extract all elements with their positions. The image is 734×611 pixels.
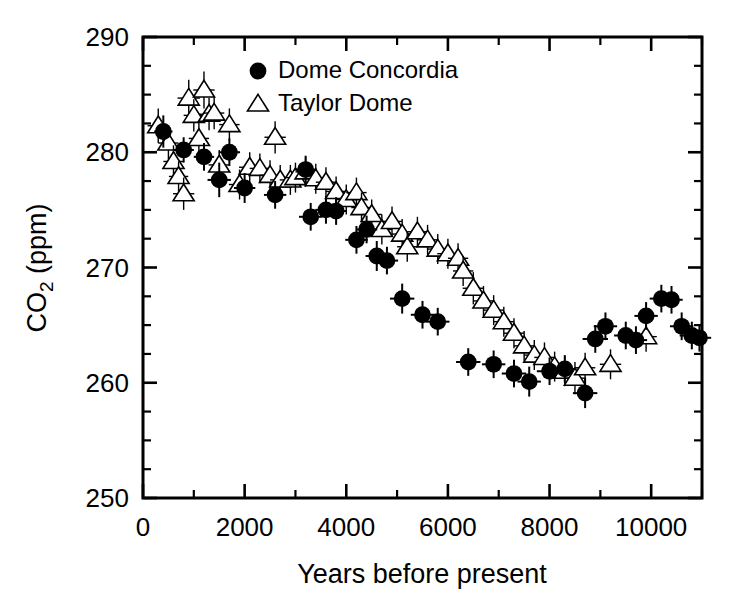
marker-filled-circle [221,144,238,161]
marker-filled-circle [628,332,645,349]
y-tick-label: 280 [86,137,129,167]
x-tick-label: 8000 [521,512,579,542]
y-tick-label: 290 [86,22,129,52]
chart-canvas: 250260270280290 0200040006000800010000 D… [0,0,734,611]
marker-filled-circle [485,356,502,373]
co2-ice-core-chart: 250260270280290 0200040006000800010000 D… [0,0,734,611]
marker-filled-circle [691,329,708,346]
marker-filled-circle [541,363,558,380]
marker-filled-circle [638,308,655,325]
x-tick-label: 0 [136,512,150,542]
marker-filled-circle [429,313,446,330]
marker-filled-circle [267,186,284,203]
marker-filled-circle [506,365,523,382]
y-tick-label: 250 [86,483,129,513]
marker-filled-circle [302,208,319,225]
legend-label: Taylor Dome [278,89,413,116]
marker-filled-circle [379,252,396,269]
marker-filled-circle [211,172,228,189]
x-tick-label: 6000 [419,512,477,542]
marker-filled-circle [394,290,411,307]
marker-filled-circle [196,148,213,165]
marker-filled-circle [328,203,345,220]
svg-text:CO2 (ppm): CO2 (ppm) [22,203,57,332]
legend-entry-dome-concordia[interactable]: Dome Concordia [250,56,459,83]
marker-filled-circle [577,385,594,402]
legend-label: Dome Concordia [278,56,459,83]
marker-filled-circle [597,318,614,335]
marker-filled-circle [460,354,477,371]
legend-marker-filled-circle [250,63,267,80]
marker-filled-circle [297,161,314,178]
x-tick-label: 10000 [615,512,687,542]
y-tick-label: 260 [86,368,129,398]
x-tick-label: 4000 [317,512,375,542]
marker-filled-circle [155,123,172,140]
y-axis-title: CO2 (ppm) [22,203,57,332]
y-tick-label: 270 [86,253,129,283]
marker-filled-circle [556,361,573,378]
x-axis-title: Years before present [297,559,547,589]
marker-filled-circle [175,142,192,159]
marker-filled-circle [663,291,680,308]
marker-filled-circle [521,373,538,390]
marker-filled-circle [414,306,431,323]
x-tick-label: 2000 [216,512,274,542]
marker-filled-circle [358,221,375,238]
marker-filled-circle [236,180,253,197]
